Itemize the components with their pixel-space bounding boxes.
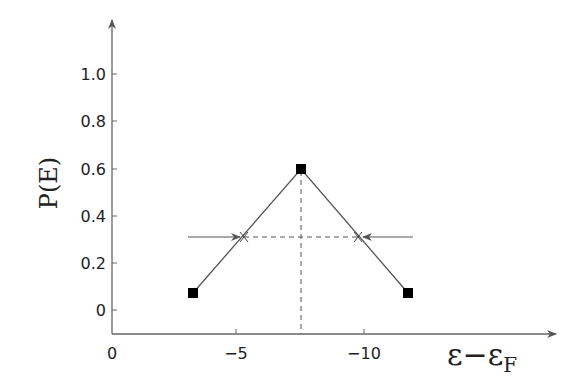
y-tick-label: 0.2 [81,254,106,273]
y-ticks [112,74,117,310]
x-tick-label: −10 [347,344,381,363]
x-tick-labels: 0 −5 −10 [107,344,381,363]
y-tick-label: 0.6 [81,160,106,179]
x-axis-label: ε−εF [447,337,517,377]
y-tick-label: 0 [96,301,106,320]
y-tick-label: 0.8 [81,112,106,131]
x-ticks [236,329,364,334]
x-tick-label: −5 [224,344,248,363]
y-axis-label: P(E) [35,157,63,209]
data-point-marker [188,288,198,298]
x-tick-label: 0 [107,344,117,363]
y-tick-labels: 1.0 0.8 0.6 0.4 0.2 0 [81,65,106,320]
data-point-marker [296,164,306,174]
y-tick-label: 1.0 [81,65,106,84]
chart: 1.0 0.8 0.6 0.4 0.2 0 0 −5 −10 P(E) ε−εF [0,0,587,384]
x-axis-label-subscript: F [503,353,517,377]
y-tick-label: 0.4 [81,207,106,226]
x-axis-label-main: ε−ε [447,337,503,372]
data-point-marker [403,288,413,298]
